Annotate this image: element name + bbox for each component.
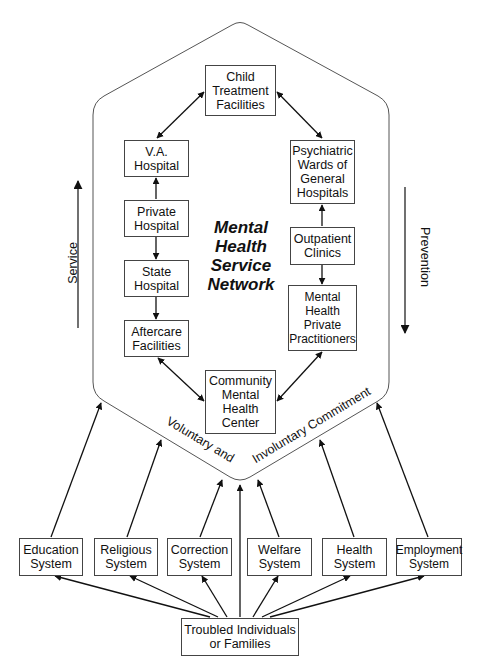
node-label: Hospital xyxy=(134,219,179,233)
edge-religious-network xyxy=(127,440,161,537)
node-label: Aftercare xyxy=(131,325,182,339)
node-label: V.A. xyxy=(145,145,167,159)
node-aftercare-facilities: Aftercare Facilities xyxy=(124,320,189,357)
node-label: System xyxy=(409,557,449,571)
node-label: Employment xyxy=(396,543,463,557)
edge-employment-network xyxy=(377,403,428,537)
node-label: Religious xyxy=(100,543,151,557)
edge-source-education xyxy=(55,576,210,617)
edge-aftercare-community xyxy=(158,358,204,401)
node-label: Wards of xyxy=(298,158,348,172)
service-label: Service xyxy=(66,228,80,298)
title-line: Service xyxy=(196,256,286,275)
node-religious-system: Religious System xyxy=(94,538,158,576)
node-state-hospital: State Hospital xyxy=(124,260,189,297)
edge-correction-network xyxy=(200,480,222,537)
mental-health-network-diagram: Mental Health Service Network Service Pr… xyxy=(0,0,481,672)
node-va-hospital: V.A. Hospital xyxy=(124,140,189,177)
title-line: Health xyxy=(196,237,286,256)
edge-source-employment xyxy=(270,576,424,617)
node-label: Health xyxy=(336,543,372,557)
network-title: Mental Health Service Network xyxy=(196,218,286,294)
node-label: Health xyxy=(222,402,258,416)
node-welfare-system: Welfare System xyxy=(247,538,312,576)
node-label: Education xyxy=(23,543,79,557)
edge-source-health xyxy=(262,576,350,617)
node-label: General xyxy=(300,172,344,186)
node-label: Practitioners xyxy=(289,332,356,346)
node-label: System xyxy=(334,557,376,571)
node-label: Private xyxy=(304,318,341,332)
edge-education-network xyxy=(51,403,101,537)
node-troubled-individuals: Troubled Individuals or Families xyxy=(181,618,299,656)
node-label: System xyxy=(105,557,147,571)
node-label: Correction xyxy=(171,543,229,557)
node-label: Center xyxy=(222,416,260,430)
node-label: Hospital xyxy=(134,279,179,293)
node-label: Treatment xyxy=(212,84,269,98)
title-line: Network xyxy=(196,275,286,294)
edge-source-religious xyxy=(130,576,218,617)
node-community-mental-health-center: Community Mental Health Center xyxy=(205,370,276,434)
node-label: Health xyxy=(305,304,340,318)
node-label: Private xyxy=(137,205,176,219)
node-employment-system: Employment System xyxy=(396,538,462,576)
node-label: Troubled Individuals xyxy=(184,623,295,637)
node-label: Child xyxy=(226,70,255,84)
node-label: Mental xyxy=(222,388,260,402)
edge-health-network xyxy=(320,440,354,537)
node-label: State xyxy=(142,265,171,279)
node-label: Community xyxy=(209,374,272,388)
node-outpatient-clinics: Outpatient Clinics xyxy=(290,227,355,265)
node-label: Welfare xyxy=(258,543,301,557)
node-label: Facilities xyxy=(216,98,265,112)
node-label: Outpatient xyxy=(294,232,352,246)
node-psychiatric-wards: Psychiatric Wards of General Hospitals xyxy=(290,140,355,204)
edge-child-psychiatric xyxy=(277,92,322,138)
edge-practitioners-community xyxy=(277,352,322,401)
edge-welfare-network xyxy=(258,480,279,537)
node-label: Facilities xyxy=(132,339,181,353)
node-label: System xyxy=(179,557,221,571)
node-label: System xyxy=(30,557,72,571)
node-private-hospital: Private Hospital xyxy=(124,200,189,237)
node-label: System xyxy=(259,557,301,571)
title-line: Mental xyxy=(196,218,286,237)
edge-child-va xyxy=(157,92,204,138)
node-label: or Families xyxy=(209,637,270,651)
node-private-practitioners: Mental Health Private Practitioners xyxy=(288,285,357,351)
node-child-treatment-facilities: Child Treatment Facilities xyxy=(205,65,276,116)
node-label: Hospital xyxy=(134,159,179,173)
node-health-system: Health System xyxy=(322,538,387,576)
node-education-system: Education System xyxy=(19,538,83,576)
node-label: Hospitals xyxy=(297,186,348,200)
node-label: Mental xyxy=(304,290,340,304)
node-label: Psychiatric xyxy=(292,144,352,158)
node-label: Clinics xyxy=(304,246,341,260)
node-correction-system: Correction System xyxy=(167,538,232,576)
prevention-label: Prevention xyxy=(418,217,432,297)
